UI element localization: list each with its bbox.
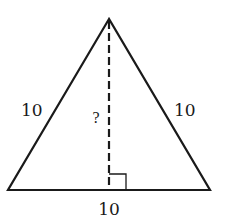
right-side-label: 10 (174, 100, 196, 120)
triangle-diagram: 10 10 10 ? (0, 0, 229, 219)
height-label: ? (92, 109, 99, 126)
right-angle-marker (109, 174, 126, 190)
left-side-label: 10 (21, 100, 43, 120)
base-label: 10 (98, 199, 120, 219)
